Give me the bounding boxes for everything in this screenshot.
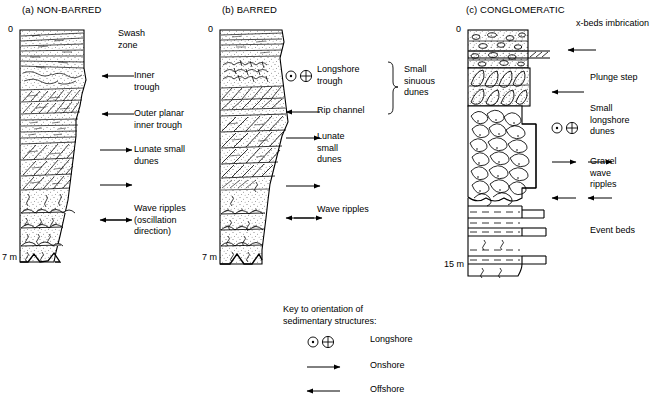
- depth-top-non-barred: 0: [8, 24, 13, 34]
- annotation-label-lunate-dunes-barred: Lunate small dunes: [317, 131, 345, 166]
- onshore-arrow-icon: [306, 362, 348, 372]
- legend-row-longshore: Longshore: [283, 334, 377, 360]
- legend-title: Key to orientation of sedimentary struct…: [283, 303, 377, 327]
- depth-top-barred: 0: [208, 24, 213, 34]
- column-title-non-barred: (a) NON-BARRED: [22, 4, 102, 15]
- depth-bottom-non-barred: 7 m: [2, 252, 17, 262]
- legend-label-offshore: Offshore: [370, 384, 404, 396]
- annotation-label-lunate-dunes: Lunate small dunes: [134, 144, 185, 167]
- longshore-symbol-conglomeratic: [552, 122, 578, 133]
- annotation-label-longshore-trough: Longshore trough: [317, 64, 360, 87]
- brace-small-sinuous-dunes: [386, 60, 402, 116]
- legend-row-offshore: Offshore: [283, 384, 377, 398]
- legend-label-longshore: Longshore: [370, 334, 413, 346]
- annotation-label-wave-ripples-barred: Wave ripples: [317, 204, 369, 216]
- log-column-non-barred: [18, 28, 100, 266]
- annotation-label-small-sinuous-dunes: Small sinuous dunes: [404, 64, 435, 99]
- annotation-label-inner-trough: Inner trough: [134, 70, 160, 93]
- depth-top-conglomeratic: 0: [456, 24, 461, 34]
- depth-bottom-conglomeratic: 15 m: [444, 259, 464, 269]
- annotation-label-gravel-wave-ripples: Gravel wave ripples: [590, 156, 617, 191]
- legend-row-onshore: Onshore: [283, 360, 377, 384]
- longshore-symbol-icon: [306, 335, 348, 349]
- offshore-arrow-icon: [306, 386, 348, 396]
- annotation-label-xbeds-imbrication: x-beds imbrication: [576, 18, 649, 30]
- annotation-label-wave-ripples: Wave ripples (oscillation direction): [134, 203, 186, 238]
- column-title-conglomeratic: (c) CONGLOMERATIC: [466, 4, 565, 15]
- legend: Key to orientation of sedimentary struct…: [283, 303, 377, 398]
- annotation-label-event-beds: Event beds: [590, 225, 635, 237]
- annotation-label-swash-zone: Swash zone: [118, 28, 145, 51]
- legend-label-onshore: Onshore: [370, 360, 405, 372]
- annotation-label-outer-planar: Outer planar inner trough: [134, 108, 184, 131]
- annotation-label-rip-channel: Rip channel: [317, 105, 365, 117]
- annotation-label-small-longshore-dunes: Small longshore dunes: [590, 103, 630, 138]
- column-title-barred: (b) BARRED: [222, 4, 277, 15]
- depth-bottom-barred: 7 m: [202, 252, 217, 262]
- annotation-label-plunge-step: Plunge step: [590, 72, 638, 84]
- log-column-barred: [218, 28, 298, 268]
- log-column-conglomeratic: [466, 28, 552, 276]
